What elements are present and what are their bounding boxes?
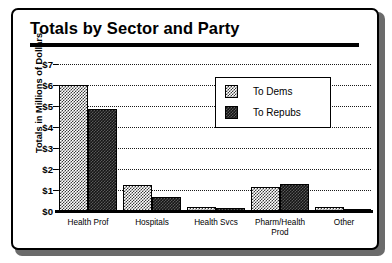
x-tick-label-hospitals: Hospitals <box>135 218 169 228</box>
plot-area: Totals in Millions of Dollars $0 $1 $2 $… <box>13 10 379 250</box>
bar-health-svcs-repubs <box>216 208 245 211</box>
x-tick-label-pharm-health-prod: Pharm/Health Prod <box>255 218 305 237</box>
legend-label-dems: To Dems <box>253 86 292 97</box>
bar-pharm-health-prod-repubs <box>280 184 309 211</box>
bar-health-prof-dems <box>59 85 88 211</box>
chart-figure: Totals by Sector and Party Totals in Mil… <box>0 0 392 263</box>
bar-hospitals-dems <box>123 185 152 211</box>
bar-hospitals-repubs <box>152 197 181 211</box>
bar-pharm-health-prod-dems <box>251 187 280 211</box>
bar-other-dems <box>315 207 344 211</box>
legend-item-dems: To Dems <box>225 85 292 98</box>
bar-health-prof-repubs <box>88 109 117 211</box>
x-tick-label-health-svcs: Health Svcs <box>194 218 238 228</box>
legend-item-repubs: To Repubs <box>225 106 301 119</box>
x-tick-label-other: Other <box>334 218 354 228</box>
legend-swatch-dems-icon <box>225 85 238 98</box>
bar-other-repubs <box>344 209 371 211</box>
legend-label-repubs: To Repubs <box>253 107 301 118</box>
legend-swatch-repubs-icon <box>225 106 238 119</box>
chart-frame: Totals by Sector and Party Totals in Mil… <box>11 8 379 250</box>
x-tick-label-health-prof: Health Prof <box>68 218 109 228</box>
chart-legend: To Dems To Repubs <box>215 77 331 128</box>
bar-health-svcs-dems <box>187 207 216 211</box>
